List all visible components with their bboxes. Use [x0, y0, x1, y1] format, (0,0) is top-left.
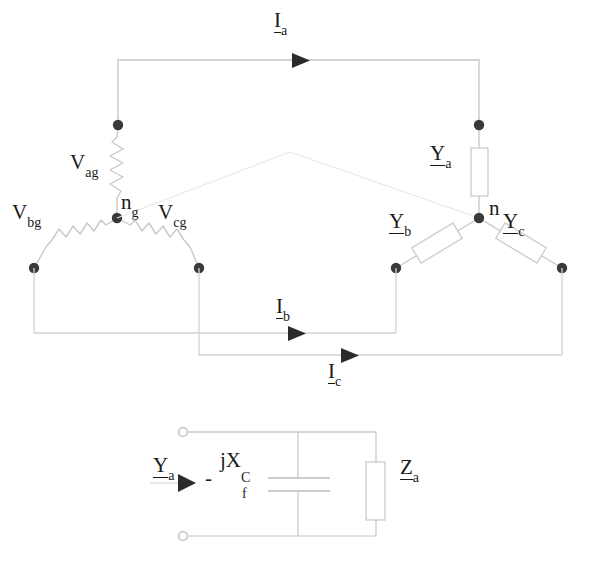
label-admittance-yc: Yc — [503, 211, 524, 235]
admittance-box-yb — [412, 223, 462, 263]
label-admittance-ya: Ya — [430, 143, 451, 167]
node-source-a — [113, 120, 123, 130]
phase-a-top-wire-group — [118, 53, 479, 125]
node-load-neutral-n — [474, 213, 484, 223]
phase-b-conductor — [34, 268, 396, 333]
phase-a-conductor — [118, 60, 479, 125]
label-current-ic: Ic — [328, 361, 341, 385]
label-equiv-minus-sign: - — [205, 468, 212, 489]
label-current-ib: Ib — [276, 296, 290, 320]
terminal-top-open — [179, 428, 188, 437]
circuit-schematic-svg — [0, 0, 591, 575]
equiv-pointer-arrow — [178, 474, 196, 492]
source-wye-group — [29, 120, 204, 273]
admittance-box-ya — [471, 148, 488, 196]
terminal-bottom-open — [179, 532, 188, 541]
label-source-vbg: Vbg — [12, 202, 41, 226]
label-load-neutral-n: n — [489, 198, 500, 219]
label-admittance-yb: Yb — [389, 211, 411, 235]
label-current-ia: Ia — [274, 10, 287, 34]
label-equiv-reactance-xcf: jXCf — [220, 450, 253, 471]
source-phase-bc-wires — [34, 268, 562, 363]
impedance-box-za — [366, 462, 385, 520]
source-coil-vbg — [34, 218, 117, 268]
label-equiv-impedance-za: Za — [400, 457, 419, 481]
circuit-diagram-canvas: Ia Ib Ic Vag Vbg Vcg ng Ya Yb Yc n Ya - … — [0, 0, 591, 575]
equivalent-circuit-group — [150, 428, 385, 541]
node-load-a — [474, 120, 484, 130]
label-source-vag: Vag — [70, 152, 98, 176]
label-source-neutral-ng: ng — [121, 192, 139, 216]
load-return-wires — [396, 268, 562, 355]
label-source-vcg: Vcg — [158, 202, 186, 226]
phase-c-conductor — [199, 268, 562, 355]
current-arrow-ia — [292, 53, 310, 68]
current-arrow-ib — [288, 326, 306, 341]
label-equiv-admittance-ya: Ya — [153, 455, 174, 479]
current-arrow-ic — [341, 348, 359, 363]
